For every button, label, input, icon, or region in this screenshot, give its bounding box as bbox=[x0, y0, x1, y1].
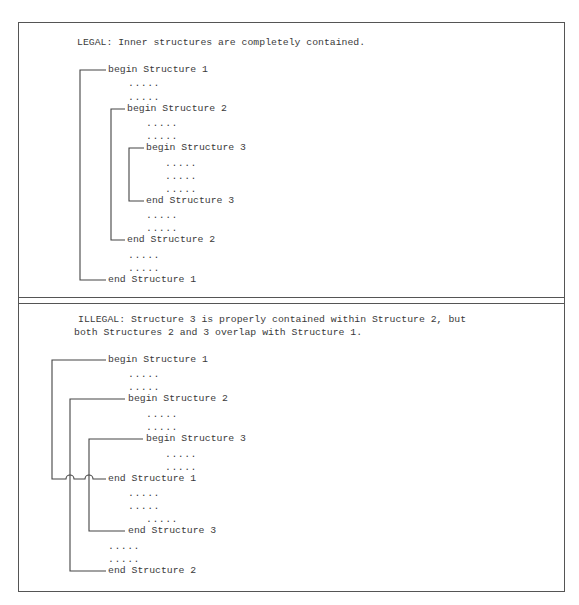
legal-heading: LEGAL: Inner structures are completely c… bbox=[77, 37, 365, 49]
ellipsis-placeholder: ..... bbox=[128, 369, 160, 381]
structure-marker: begin Structure 2 bbox=[128, 393, 228, 405]
illegal-bracket-structure-1 bbox=[52, 360, 106, 479]
bracket-lines bbox=[0, 0, 579, 605]
ellipsis-placeholder: ..... bbox=[128, 78, 160, 90]
ellipsis-placeholder: ..... bbox=[128, 250, 160, 262]
ellipsis-placeholder: ..... bbox=[128, 501, 160, 513]
ellipsis-placeholder: ..... bbox=[165, 158, 197, 170]
structure-marker: end Structure 3 bbox=[128, 525, 216, 537]
structure-marker: begin Structure 2 bbox=[127, 103, 227, 115]
legal-bracket-structure-1 bbox=[80, 70, 106, 280]
ellipsis-placeholder: ..... bbox=[165, 171, 197, 183]
ellipsis-placeholder: ..... bbox=[146, 409, 178, 421]
structure-marker: end Structure 2 bbox=[127, 234, 215, 246]
ellipsis-placeholder: ..... bbox=[165, 449, 197, 461]
structure-marker: begin Structure 3 bbox=[146, 433, 246, 445]
ellipsis-placeholder: ..... bbox=[108, 541, 140, 553]
legal-bracket-structure-3 bbox=[129, 148, 144, 201]
structure-marker: begin Structure 1 bbox=[108, 64, 208, 76]
illegal-bracket-structure-3 bbox=[89, 439, 143, 531]
structure-marker: end Structure 1 bbox=[108, 274, 196, 286]
legal-bracket-structure-2 bbox=[111, 109, 125, 240]
structure-marker: end Structure 3 bbox=[146, 195, 234, 207]
ellipsis-placeholder: ..... bbox=[146, 118, 178, 130]
structure-marker: end Structure 1 bbox=[108, 473, 196, 485]
structure-marker: begin Structure 1 bbox=[108, 354, 208, 366]
illegal-heading-line-2: both Structures 2 and 3 overlap with Str… bbox=[74, 327, 362, 339]
structure-marker: begin Structure 3 bbox=[146, 142, 246, 154]
ellipsis-placeholder: ..... bbox=[146, 210, 178, 222]
structure-marker: end Structure 2 bbox=[108, 565, 196, 577]
illegal-heading-line-1: ILLEGAL: Structure 3 is properly contain… bbox=[78, 314, 466, 326]
ellipsis-placeholder: ..... bbox=[128, 488, 160, 500]
